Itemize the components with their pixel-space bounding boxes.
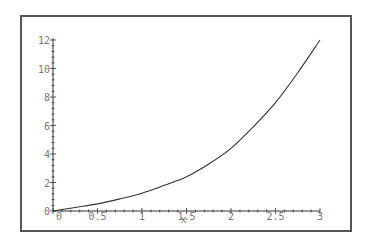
x-tick-label: 0 [56,211,62,222]
ticks [50,40,320,214]
y-tick-label: 6 [44,121,50,132]
x-tick-label: 3 [317,211,323,222]
x-axis-label: x [180,214,186,225]
axes [53,38,320,211]
tick-labels: 00.511.522.53024681012 [38,35,323,222]
x-tick-label: 0.5 [88,211,106,222]
y-tick-label: 8 [44,92,50,103]
x-tick-label: 2.5 [266,211,284,222]
y-tick-label: 10 [38,64,50,75]
x-tick-label: 2 [228,211,234,222]
data-curve [53,40,320,211]
y-tick-label: 0 [44,206,50,217]
y-tick-label: 2 [44,178,50,189]
line-chart: 00.511.522.53024681012 x [0,0,370,247]
x-tick-label: 1 [139,211,145,222]
y-tick-label: 12 [38,35,50,46]
y-tick-label: 4 [44,149,50,160]
